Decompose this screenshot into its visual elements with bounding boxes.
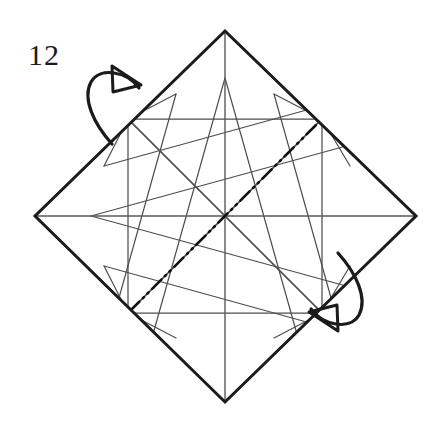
crease-pattern-diagram <box>0 0 441 429</box>
origami-figure: 12 <box>0 0 441 429</box>
